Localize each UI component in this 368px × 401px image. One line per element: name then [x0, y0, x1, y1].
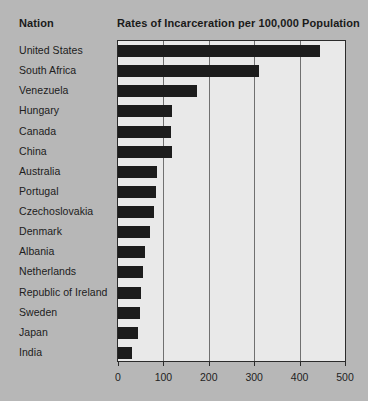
- bar: [118, 146, 172, 158]
- bar-series: [118, 41, 345, 361]
- x-tick-label: 300: [245, 371, 263, 383]
- bar: [118, 347, 132, 359]
- bar: [118, 206, 154, 218]
- bar-row: [118, 303, 345, 324]
- x-tick-label: 200: [200, 371, 218, 383]
- bar: [118, 65, 259, 77]
- bar: [118, 327, 138, 339]
- category-label: Czechoslovakia: [19, 201, 113, 222]
- bar-row: [118, 262, 345, 283]
- bar: [118, 126, 171, 138]
- category-label: Albania: [19, 241, 113, 262]
- category-label: Japan: [19, 322, 113, 343]
- category-label: Australia: [19, 161, 113, 182]
- x-tick-label: 0: [115, 371, 121, 383]
- bar: [118, 186, 156, 198]
- bar-row: [118, 81, 345, 102]
- x-axis: 0100200300400500: [117, 362, 346, 401]
- chart-header: Nation Rates of Incarceration per 100,00…: [0, 0, 368, 40]
- x-tick-mark: [345, 362, 346, 366]
- category-label: Netherlands: [19, 261, 113, 282]
- nation-column-header: Nation: [19, 17, 54, 29]
- x-tick-label: 100: [155, 371, 173, 383]
- chart-title: Rates of Incarceration per 100,000 Popul…: [117, 17, 360, 29]
- x-tick-mark: [209, 362, 210, 366]
- bar-row: [118, 182, 345, 203]
- bar-row: [118, 222, 345, 243]
- x-tick-mark: [163, 362, 164, 366]
- bar-row: [118, 283, 345, 304]
- category-label: Venezuela: [19, 80, 113, 101]
- bar-row: [118, 242, 345, 263]
- category-label: Canada: [19, 121, 113, 142]
- category-label: China: [19, 141, 113, 162]
- bar: [118, 266, 143, 278]
- bar-row: [118, 142, 345, 163]
- category-label: Portugal: [19, 181, 113, 202]
- category-label: United States: [19, 40, 113, 61]
- x-tick-label: 500: [336, 371, 354, 383]
- bar: [118, 307, 140, 319]
- bar-row: [118, 101, 345, 122]
- bar: [118, 105, 172, 117]
- bar-row: [118, 162, 345, 183]
- bar-row: [118, 61, 345, 82]
- x-tick-mark: [254, 362, 255, 366]
- bar-row: [118, 122, 345, 143]
- x-tick-mark: [300, 362, 301, 366]
- x-tick-label: 400: [291, 371, 309, 383]
- bar: [118, 45, 320, 57]
- category-label: South Africa: [19, 60, 113, 81]
- bar-row: [118, 41, 345, 62]
- plot-area: [117, 40, 346, 362]
- category-label: Republic of Ireland: [19, 282, 113, 303]
- bar: [118, 246, 145, 258]
- bar: [118, 166, 157, 178]
- category-label: India: [19, 342, 113, 363]
- bar-row: [118, 323, 345, 344]
- bar-row: [118, 202, 345, 223]
- x-tick-mark: [118, 362, 119, 366]
- category-label: Denmark: [19, 221, 113, 242]
- category-label: Sweden: [19, 302, 113, 323]
- bar: [118, 287, 141, 299]
- category-label: Hungary: [19, 100, 113, 121]
- bar: [118, 85, 197, 97]
- category-label-column: United StatesSouth AfricaVenezuelaHungar…: [0, 40, 117, 362]
- bar: [118, 226, 150, 238]
